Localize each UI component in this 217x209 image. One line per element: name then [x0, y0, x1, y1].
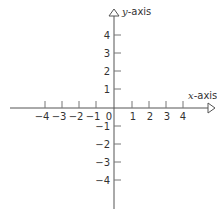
y-axis-label: y-axis — [121, 6, 151, 17]
x-tick-label: −4 — [35, 111, 50, 122]
coordinate-plane: 4 3 2 1 −1 −2 −3 −4 −4 −3 −2 −1 1 2 3 4 … — [0, 0, 217, 209]
y-tick-label: 3 — [104, 48, 110, 59]
x-tick-label: 2 — [147, 111, 153, 122]
y-tick-label: −4 — [95, 175, 110, 186]
x-tick-label: 3 — [164, 111, 170, 122]
origin-label: 0 — [106, 111, 112, 122]
y-tick-label: −1 — [95, 121, 110, 132]
x-axis-label: x-axis — [188, 90, 217, 101]
x-tick-label: 4 — [180, 111, 186, 122]
y-tick-label: 1 — [104, 84, 110, 95]
y-tick-label: −2 — [95, 139, 110, 150]
y-axis-arrow-icon — [109, 9, 119, 16]
x-tick-label: 1 — [130, 111, 136, 122]
x-tick-label: −2 — [69, 111, 84, 122]
y-tick-label: 2 — [104, 66, 110, 77]
y-tick-label: −3 — [95, 157, 110, 168]
x-tick-label: −1 — [86, 111, 101, 122]
y-tick-label: 4 — [104, 30, 110, 41]
x-tick-label: −3 — [52, 111, 67, 122]
x-axis-arrow-icon — [208, 103, 215, 113]
